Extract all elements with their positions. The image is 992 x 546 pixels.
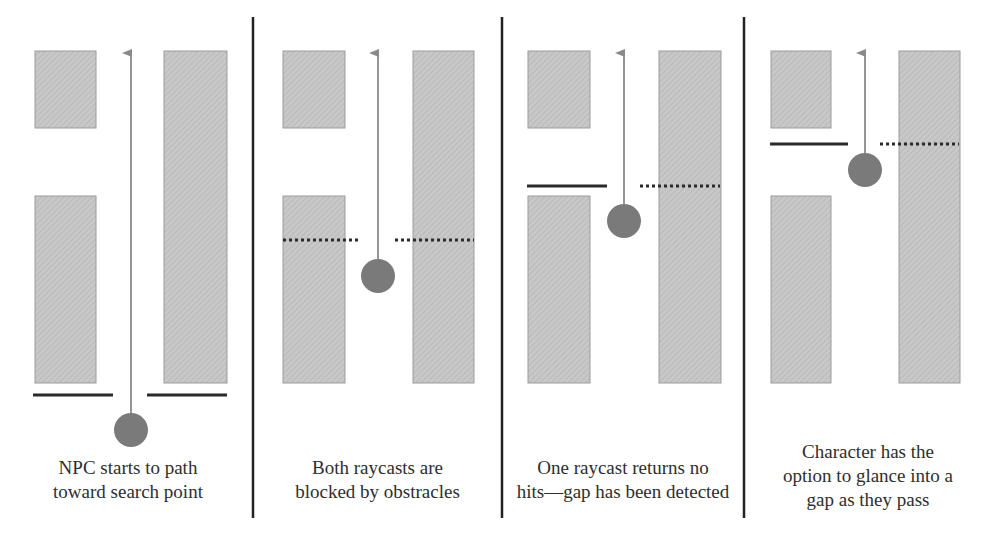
obstacle-block xyxy=(528,196,590,383)
caption-line: option to glance into a xyxy=(744,464,992,488)
caption-panel-1: NPC starts to path toward search point xyxy=(3,456,253,504)
npc-icon xyxy=(361,259,395,293)
caption-panel-2: Both raycasts are blocked by obstracles xyxy=(253,456,502,504)
obstacle-block xyxy=(528,51,590,128)
obstacle-block xyxy=(283,51,345,128)
caption-panel-3: One raycast returns no hits—gap has been… xyxy=(502,456,744,504)
caption-line: One raycast returns no xyxy=(502,456,744,480)
obstacle-block xyxy=(35,51,96,128)
npc-icon xyxy=(848,153,882,187)
caption-line: Both raycasts are xyxy=(253,456,502,480)
caption-panel-4: Character has the option to glance into … xyxy=(744,440,992,512)
obstacle-block xyxy=(771,196,831,383)
obstacle-block xyxy=(35,196,96,383)
npc-icon xyxy=(114,413,148,447)
obstacle-block xyxy=(659,51,721,383)
caption-line: hits—gap has been detected xyxy=(502,480,744,504)
raycast-gap-detection-diagram: NPC starts to path toward search point B… xyxy=(0,0,992,546)
panel-3 xyxy=(527,51,721,383)
panel-1 xyxy=(33,51,227,447)
caption-line: toward search point xyxy=(3,480,253,504)
panel-2 xyxy=(283,51,474,383)
caption-line: gap as they pass xyxy=(744,488,992,512)
obstacle-block xyxy=(899,51,960,383)
npc-icon xyxy=(607,204,641,238)
obstacle-block xyxy=(771,51,831,128)
caption-line: blocked by obstracles xyxy=(253,480,502,504)
obstacle-block xyxy=(413,51,474,383)
obstacle-block xyxy=(164,51,227,383)
panel-4 xyxy=(770,51,960,383)
caption-line: Character has the xyxy=(744,440,992,464)
obstacle-block xyxy=(283,196,345,383)
caption-line: NPC starts to path xyxy=(3,456,253,480)
